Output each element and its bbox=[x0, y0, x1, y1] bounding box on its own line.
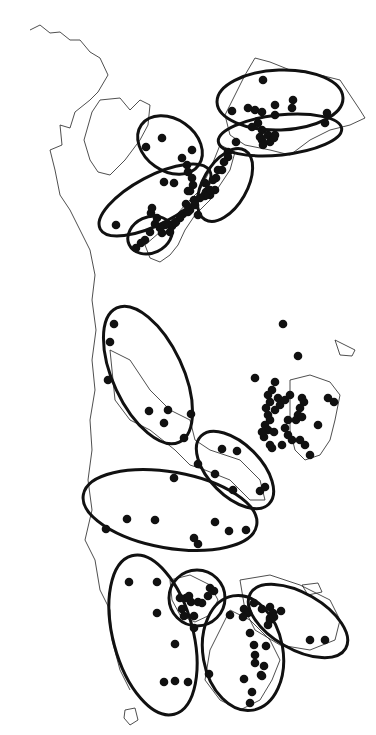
site-dot bbox=[125, 578, 134, 587]
site-dot bbox=[258, 428, 267, 437]
site-dot bbox=[214, 166, 223, 175]
site-dot bbox=[160, 678, 169, 687]
map-canvas bbox=[0, 0, 376, 735]
site-dot bbox=[151, 516, 160, 525]
site-dot bbox=[306, 636, 315, 645]
site-dot bbox=[251, 374, 260, 383]
site-dot bbox=[306, 451, 315, 460]
site-dot bbox=[164, 406, 173, 415]
site-dot bbox=[246, 629, 255, 638]
site-dot bbox=[204, 592, 213, 601]
site-dot bbox=[284, 416, 293, 425]
site-dot bbox=[198, 599, 207, 608]
site-dot bbox=[259, 76, 268, 85]
site-dot bbox=[184, 678, 193, 687]
site-dot bbox=[277, 607, 286, 616]
site-dot bbox=[289, 96, 298, 105]
site-dot bbox=[211, 470, 220, 479]
region-ellipse-C bbox=[126, 104, 213, 187]
site-dot bbox=[266, 441, 275, 450]
site-dot bbox=[286, 391, 295, 400]
site-dot bbox=[258, 672, 267, 681]
site-dot bbox=[220, 158, 229, 167]
site-dot bbox=[171, 677, 180, 686]
site-dot bbox=[260, 662, 269, 671]
site-dot bbox=[142, 143, 151, 152]
site-dot bbox=[261, 483, 270, 492]
site-dot bbox=[251, 659, 260, 668]
site-dot bbox=[288, 436, 297, 445]
site-dot bbox=[239, 613, 248, 622]
site-dot bbox=[233, 447, 242, 456]
region-ellipse-J bbox=[93, 545, 213, 724]
site-dot bbox=[258, 108, 267, 117]
site-dot bbox=[251, 651, 260, 660]
coastline bbox=[84, 98, 150, 175]
site-dot bbox=[148, 204, 157, 213]
coastline bbox=[110, 350, 265, 500]
site-dot bbox=[264, 621, 273, 630]
site-dot bbox=[330, 398, 339, 407]
site-dot bbox=[270, 428, 279, 437]
site-dot bbox=[158, 229, 167, 238]
site-dot bbox=[228, 107, 237, 116]
site-dot bbox=[112, 221, 121, 230]
site-dot bbox=[218, 445, 227, 454]
site-dot bbox=[194, 540, 203, 549]
region-ellipse-G bbox=[85, 293, 211, 457]
site-dot bbox=[294, 352, 303, 361]
site-dot bbox=[298, 413, 307, 422]
site-dot bbox=[271, 378, 280, 387]
site-dot bbox=[248, 688, 257, 697]
site-dot bbox=[158, 134, 167, 143]
site-dot bbox=[211, 518, 220, 527]
site-dot bbox=[171, 640, 180, 649]
site-dot bbox=[242, 526, 251, 535]
site-dot bbox=[123, 515, 132, 524]
site-dot bbox=[225, 527, 234, 536]
site-dot bbox=[185, 592, 194, 601]
site-dot bbox=[106, 338, 115, 347]
site-dot bbox=[232, 138, 241, 147]
site-dot bbox=[145, 407, 154, 416]
site-dot bbox=[160, 419, 169, 428]
site-dot bbox=[262, 642, 271, 651]
site-dot bbox=[240, 675, 249, 684]
site-dot bbox=[259, 141, 268, 150]
site-dot bbox=[153, 578, 162, 587]
site-dot bbox=[250, 641, 259, 650]
site-dot bbox=[178, 154, 187, 163]
site-dot bbox=[301, 441, 310, 450]
coastline bbox=[335, 340, 355, 356]
coastline-layer bbox=[30, 25, 365, 725]
site-dot bbox=[226, 611, 235, 620]
region-ellipse-B bbox=[216, 109, 344, 162]
site-dot bbox=[160, 178, 169, 187]
site-dot bbox=[184, 187, 193, 196]
site-dot bbox=[246, 699, 255, 708]
site-dot bbox=[279, 320, 288, 329]
site-dot bbox=[314, 421, 323, 430]
site-dot bbox=[271, 101, 280, 110]
site-dot bbox=[170, 179, 179, 188]
site-dot bbox=[278, 441, 287, 450]
site-dot bbox=[188, 146, 197, 155]
coastline bbox=[30, 25, 130, 690]
site-dot bbox=[288, 104, 297, 113]
site-dot bbox=[110, 320, 119, 329]
site-dot bbox=[244, 104, 253, 113]
coastline bbox=[124, 708, 138, 725]
site-dot bbox=[321, 636, 330, 645]
site-dot bbox=[153, 609, 162, 618]
site-dot bbox=[170, 474, 179, 483]
region-ellipse-I bbox=[77, 457, 264, 562]
site-dot bbox=[271, 131, 280, 140]
